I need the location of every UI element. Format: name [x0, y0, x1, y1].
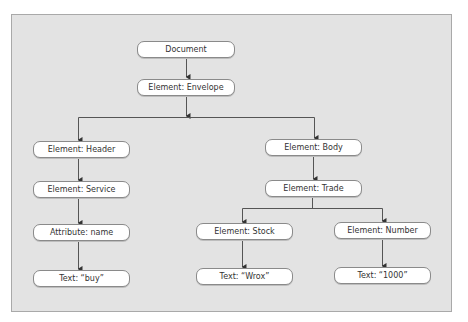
- node-element-envelope: Element: Envelope: [137, 79, 235, 96]
- node-text-1000: Text: “1000”: [334, 267, 431, 284]
- node-element-trade: Element: Trade: [265, 180, 362, 197]
- node-element-body: Element: Body: [265, 139, 362, 156]
- node-element-header: Element: Header: [33, 141, 130, 158]
- node-document: Document: [137, 41, 235, 58]
- node-element-number: Element: Number: [334, 222, 431, 239]
- node-element-stock: Element: Stock: [196, 223, 293, 240]
- node-text-buy: Text: “buy”: [33, 270, 130, 287]
- node-attribute-name: Attribute: name: [33, 224, 130, 241]
- node-text-wrox: Text: “Wrox”: [196, 268, 293, 285]
- node-element-service: Element: Service: [33, 181, 130, 198]
